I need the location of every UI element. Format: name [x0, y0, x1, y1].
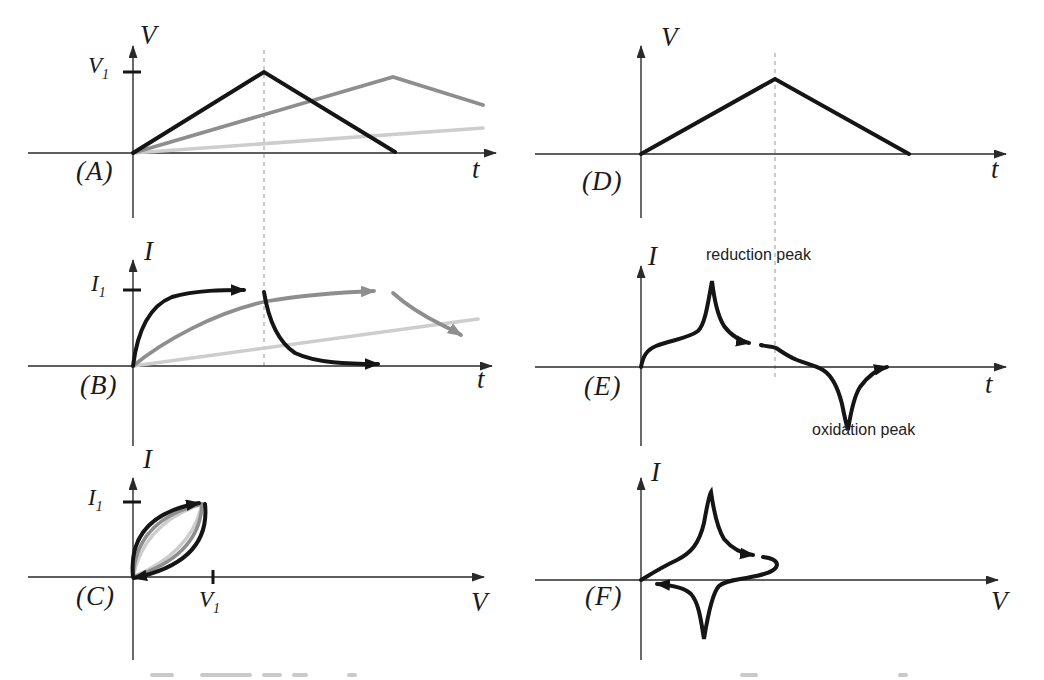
caption-fragment-mark: [150, 673, 174, 677]
panel-c-x-axis-label: V: [471, 589, 488, 616]
tick-base: I: [91, 271, 99, 296]
panel-d-y-axis-label: V: [661, 24, 678, 51]
panel-c-y-axis-label: I: [143, 446, 152, 473]
panel-a-slow-ramp: [133, 128, 483, 153]
caption-fragment-mark: [740, 673, 758, 677]
panel-e: [535, 266, 1006, 446]
panel-f-cv-forward: [641, 492, 753, 580]
cropped-caption-remnant: [0, 673, 1044, 680]
tick-sub: 1: [99, 285, 106, 300]
panel-a: [28, 46, 496, 370]
panel-a-tag: (A): [76, 158, 113, 185]
tick-base: V: [88, 53, 102, 78]
oxidation-peak-annotation: oxidation peak: [812, 422, 915, 438]
tick-sub: 1: [102, 67, 109, 82]
panel-d-tag: (D): [582, 168, 622, 195]
panel-a-x-axis-label: t: [472, 156, 480, 183]
panel-e-y-axis-label: I: [648, 243, 657, 270]
caption-fragment-mark: [347, 673, 357, 677]
panel-c-v1-tick-label: V1: [199, 588, 220, 611]
tick-sub: 1: [213, 601, 220, 616]
panel-f-tag: (F): [585, 583, 622, 610]
panel-e-tag: (E): [584, 373, 621, 400]
panel-e-current-return: [761, 345, 887, 430]
panel-f-y-axis-label: I: [651, 459, 660, 486]
panel-f-cv-return: [657, 557, 777, 639]
tick-sub: 1: [96, 499, 103, 514]
panel-b-y-axis-label: I: [144, 238, 153, 265]
panel-f: [535, 478, 998, 660]
panel-d-x-axis-label: t: [991, 156, 999, 183]
panel-f-x-axis-label: V: [991, 588, 1008, 615]
tick-base: I: [88, 485, 96, 510]
caption-fragment-mark: [262, 673, 282, 677]
caption-fragment-mark: [898, 673, 908, 677]
panel-e-current-forward: [641, 281, 749, 367]
tick-base: V: [199, 587, 213, 612]
panel-b-x-axis-label: t: [477, 366, 485, 393]
voltammetry-figure: V V1 (A) t I I1 (B) t I I1 (C) V1 V V (D…: [0, 0, 1044, 680]
panel-a-v1-tick-label: V1: [88, 54, 109, 77]
panel-b-medium-current-rise: [133, 291, 374, 366]
panel-b-fast-current-decay: [264, 292, 378, 364]
panel-e-x-axis-label: t: [985, 371, 993, 398]
panel-a-y-axis-label: V: [140, 22, 157, 49]
panel-c-i1-tick-label: I1: [88, 486, 103, 509]
panel-b-i1-tick-label: I1: [91, 272, 106, 295]
caption-fragment-mark: [292, 673, 308, 677]
caption-fragment-mark: [200, 673, 252, 677]
panel-d: [535, 46, 1006, 377]
reduction-peak-annotation: reduction peak: [706, 247, 811, 263]
figure-canvas: [0, 0, 1044, 680]
panel-b-tag: (B): [80, 372, 117, 399]
panel-c-tag: (C): [76, 583, 115, 610]
